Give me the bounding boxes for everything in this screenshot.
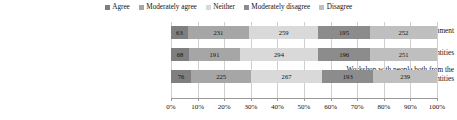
legend-swatch-moderately-agree — [139, 5, 144, 10]
bar-segment: 191 — [189, 48, 240, 61]
bar-segment: 193 — [322, 70, 373, 83]
bar-segment: 63 — [171, 26, 188, 39]
bar-segment: 252 — [370, 26, 437, 39]
x-axis-tick-label: 0% — [166, 103, 175, 112]
x-axis-tick — [224, 98, 225, 101]
legend-item-disagree: Disagree — [319, 3, 352, 12]
bar-segment: 225 — [191, 70, 251, 83]
bars-area: 63231259195252 68191294196251 7622526719… — [171, 22, 437, 98]
bar-segment: 196 — [318, 48, 370, 61]
legend-swatch-agree — [105, 5, 110, 10]
legend-label-agree: Agree — [112, 3, 130, 12]
x-axis-tick-label: 10% — [191, 103, 204, 112]
bar-segment: 68 — [171, 48, 189, 61]
bar-segment: 195 — [318, 26, 370, 39]
plot-area: Workshop with people from the government… — [0, 22, 457, 98]
x-axis-tick-label: 20% — [218, 103, 231, 112]
table-row: 63231259195252 — [171, 26, 437, 39]
x-axis-tick-label: 50% — [298, 103, 311, 112]
bar-segment: 294 — [240, 48, 318, 61]
legend-item-agree: Agree — [105, 3, 130, 12]
legend-label-neither: Neither — [213, 3, 235, 12]
stacked-bar-chart: Agree Moderately agree Neither Moderatel… — [0, 0, 457, 120]
bar-segment: 251 — [370, 48, 437, 61]
x-axis-tick-label: 70% — [351, 103, 364, 112]
table-row: 76225267193239 — [171, 70, 437, 83]
bar-segment: 76 — [171, 70, 191, 83]
legend-swatch-disagree — [319, 5, 324, 10]
x-axis-tick — [410, 98, 411, 101]
legend-swatch-moderately-disagree — [244, 5, 249, 10]
bar-segment: 259 — [249, 26, 318, 39]
x-axis-tick-label: 40% — [271, 103, 284, 112]
x-axis-tick — [277, 98, 278, 101]
x-axis-tick-label: 30% — [244, 103, 257, 112]
bar-segment: 231 — [188, 26, 249, 39]
x-axis-tick — [357, 98, 358, 101]
x-axis-tick — [384, 98, 385, 101]
table-row: 68191294196251 — [171, 48, 437, 61]
x-axis-tick — [304, 98, 305, 101]
x-axis-tick — [171, 98, 172, 101]
legend-item-neither: Neither — [206, 3, 235, 12]
x-axis-tick-label: 80% — [377, 103, 390, 112]
bar-segment: 239 — [373, 70, 437, 83]
chart-legend: Agree Moderately agree Neither Moderatel… — [0, 3, 457, 12]
x-axis-tick-label: 90% — [404, 103, 417, 112]
x-axis-tick — [198, 98, 199, 101]
gridline — [437, 22, 438, 98]
x-axis-tick — [251, 98, 252, 101]
legend-label-moderately-disagree: Moderately disagree — [251, 3, 310, 12]
legend-label-moderately-agree: Moderately agree — [146, 3, 197, 12]
x-axis-tick — [331, 98, 332, 101]
x-axis-tick-label: 100% — [429, 103, 445, 112]
legend-item-moderately-agree: Moderately agree — [139, 3, 197, 12]
legend-label-disagree: Disagree — [327, 3, 353, 12]
legend-swatch-neither — [206, 5, 211, 10]
x-axis-tick-label: 60% — [324, 103, 337, 112]
x-axis-tick — [437, 98, 438, 101]
bar-segment: 267 — [251, 70, 322, 83]
legend-item-moderately-disagree: Moderately disagree — [244, 3, 310, 12]
